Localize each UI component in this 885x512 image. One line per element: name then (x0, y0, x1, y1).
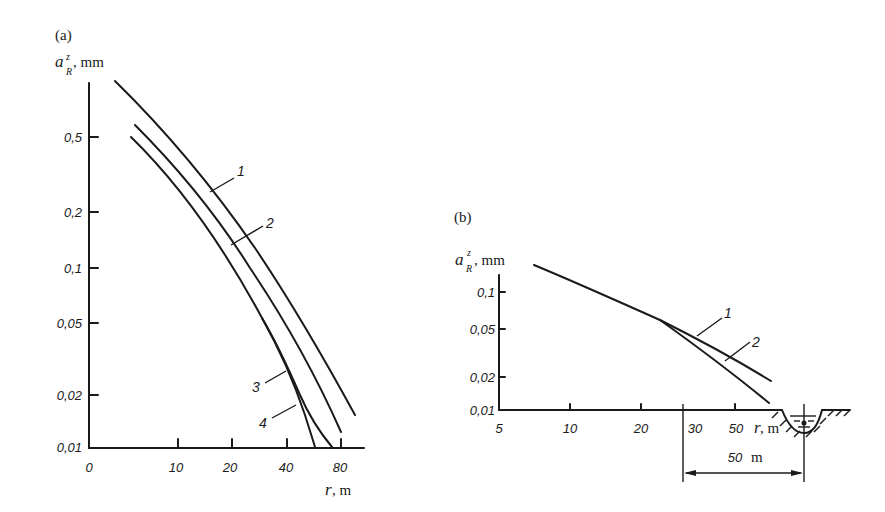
curve-label-3: 3 (252, 379, 260, 395)
y-tick-label: 0,1 (64, 261, 82, 276)
curve-label-2: 2 (751, 334, 760, 350)
y-superscript: z (466, 247, 471, 258)
panel-a-y-axis-title: a z R , mm (55, 51, 104, 77)
x-symbol: r (325, 480, 332, 499)
panel-b-y-axis-title: a z R , mm (455, 247, 505, 274)
distance-dimension: 50 m (683, 404, 804, 482)
y-subscript: R (65, 66, 72, 77)
curve-label-1: 1 (237, 163, 245, 179)
y-tick-label: 0,05 (57, 316, 83, 331)
y-tick-label: 0,01 (57, 440, 82, 455)
x-tick-label: 10 (563, 421, 578, 436)
panel-b-curve-2 (660, 320, 769, 403)
y-tick-label: 0,5 (64, 130, 83, 145)
y-symbol: a (455, 250, 464, 269)
y-tick-label: 0,1 (477, 285, 495, 300)
panel-b-curve-1 (534, 265, 771, 381)
y-tick-label: 0,02 (470, 370, 496, 385)
leader-line (697, 318, 722, 336)
y-symbol: a (55, 52, 64, 71)
curve-label-2: 2 (265, 215, 274, 231)
leader-line (272, 405, 296, 418)
x-tick-label: 30 (688, 421, 703, 436)
figure: (a) a z R , mm 0,5 0,2 0,1 0,05 0,02 0,0… (0, 0, 885, 512)
panel-a-curve-4 (262, 318, 315, 447)
panel-a-x-axis-title: r , m (325, 480, 352, 499)
y-superscript: z (65, 51, 70, 62)
x-tick-label: 20 (633, 421, 649, 436)
y-tick-label: 0,05 (470, 322, 496, 337)
panel-a-curve-3 (131, 137, 332, 447)
x-tick-label: 20 (222, 460, 238, 475)
y-subscript: R (465, 263, 472, 274)
y-tick-label: 0,01 (470, 403, 495, 418)
panel-a-curve-1 (115, 81, 355, 415)
y-tick-label: 0,2 (64, 205, 83, 220)
leader-line (265, 371, 286, 383)
x-tick-label: 5 (495, 421, 503, 436)
y-tick-label: 0,02 (57, 388, 83, 403)
curve-label-4: 4 (259, 415, 267, 431)
panel-a: (a) a z R , mm 0,5 0,2 0,1 0,05 0,02 0,0… (55, 27, 364, 499)
panel-a-x-ticks: 0 10 20 40 80 (85, 439, 348, 475)
leader-line (210, 178, 234, 192)
dimension-value: 50 (728, 450, 743, 465)
panel-b: (b) a z R , mm 0,1 0,05 0,02 0,01 5 10 2… (454, 209, 850, 482)
river-channel-icon (772, 410, 850, 437)
panel-b-x-ticks: 5 10 20 30 50 (495, 404, 744, 436)
panel-a-y-ticks: 0,5 0,2 0,1 0,05 0,02 0,01 (57, 130, 98, 455)
y-unit: , mm (73, 54, 104, 70)
x-tick-label: 10 (169, 460, 184, 475)
panel-b-label: (b) (454, 209, 472, 226)
x-tick-label: 50 (729, 421, 744, 436)
x-unit: , m (332, 482, 352, 498)
dimension-unit: m (751, 449, 763, 465)
y-unit: , mm (474, 252, 505, 268)
panel-b-x-axis-title: r , m (754, 418, 780, 437)
panel-a-label: (a) (55, 27, 72, 44)
x-tick-label: 0 (85, 460, 93, 475)
leader-line (231, 226, 263, 245)
leader-line (725, 342, 750, 361)
x-tick-label: 40 (279, 460, 294, 475)
curve-label-1: 1 (724, 305, 732, 321)
x-unit: , m (760, 420, 780, 436)
x-tick-label: 80 (333, 460, 348, 475)
